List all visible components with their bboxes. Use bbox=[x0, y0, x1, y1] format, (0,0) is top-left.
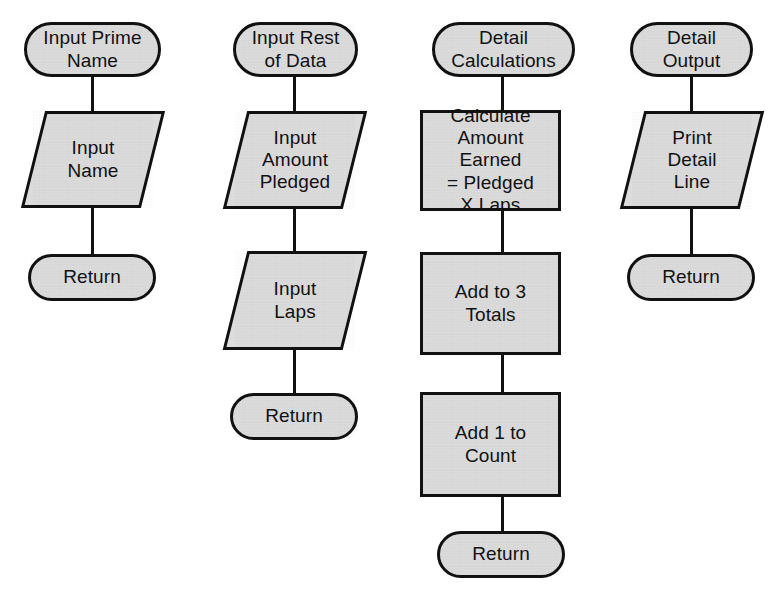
connector-line bbox=[690, 208, 693, 255]
flowchart-canvas: Input Prime Name Input Name Return Input… bbox=[0, 0, 779, 598]
node-label: Return bbox=[466, 543, 536, 565]
node-label: Detail Output bbox=[657, 27, 727, 71]
terminal-return-4[interactable]: Return bbox=[627, 254, 755, 301]
terminal-input-prime-name[interactable]: Input Prime Name bbox=[24, 22, 161, 77]
terminal-detail-output[interactable]: Detail Output bbox=[630, 22, 753, 77]
node-label: Add 1 to Count bbox=[449, 422, 533, 466]
connector-line bbox=[293, 77, 296, 113]
io-input-laps[interactable]: Input Laps bbox=[235, 251, 355, 350]
connector-line bbox=[501, 496, 504, 532]
node-label: Input Laps bbox=[235, 278, 355, 322]
connector-line bbox=[293, 349, 296, 395]
node-label: Return bbox=[656, 266, 726, 288]
connector-line bbox=[501, 210, 504, 253]
connector-line bbox=[501, 354, 504, 393]
terminal-input-rest-of-data[interactable]: Input Rest of Data bbox=[233, 22, 358, 77]
connector-line bbox=[91, 77, 94, 113]
terminal-return-3[interactable]: Return bbox=[437, 531, 565, 578]
process-add-1-to-count[interactable]: Add 1 to Count bbox=[420, 392, 561, 497]
node-label: Add to 3 Totals bbox=[449, 281, 533, 325]
node-label: Return bbox=[57, 266, 127, 288]
terminal-detail-calculations[interactable]: Detail Calculations bbox=[432, 22, 575, 77]
node-label: Input Rest of Data bbox=[246, 27, 346, 71]
process-calculate-amount-earned[interactable]: Calculate Amount Earned = Pledged X Laps bbox=[420, 110, 561, 211]
connector-line bbox=[91, 207, 94, 255]
node-label: Print Detail Line bbox=[632, 127, 752, 193]
node-label: Return bbox=[259, 405, 329, 427]
node-label: Input Prime Name bbox=[37, 27, 147, 71]
node-label: Input Amount Pledged bbox=[235, 127, 355, 193]
io-input-name[interactable]: Input Name bbox=[33, 111, 153, 208]
node-label: Input Name bbox=[33, 137, 153, 181]
terminal-return-2[interactable]: Return bbox=[230, 393, 358, 440]
process-add-to-3-totals[interactable]: Add to 3 Totals bbox=[420, 252, 561, 355]
terminal-return-1[interactable]: Return bbox=[28, 254, 156, 301]
io-input-amount-pledged[interactable]: Input Amount Pledged bbox=[235, 111, 355, 209]
node-label: Calculate Amount Earned = Pledged X Laps bbox=[423, 105, 558, 215]
node-label: Detail Calculations bbox=[445, 27, 562, 71]
connector-line bbox=[690, 77, 693, 112]
io-print-detail-line[interactable]: Print Detail Line bbox=[632, 111, 752, 209]
connector-line bbox=[293, 208, 296, 252]
